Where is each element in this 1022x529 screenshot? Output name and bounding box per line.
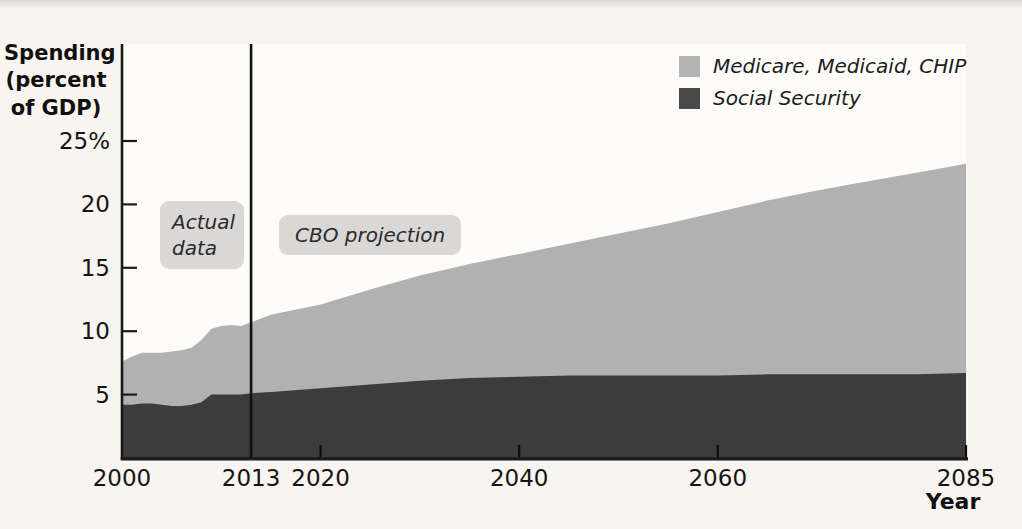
legend-swatch-social-security <box>679 88 700 109</box>
legend-item-social-security: Social Security <box>679 86 966 110</box>
legend-label: Medicare, Medicaid, CHIP <box>713 54 966 78</box>
cbo-projection-annotation: CBO projection <box>279 215 461 255</box>
y-axis-title-line: (percent <box>4 67 108 94</box>
y-tick-label: 25% <box>59 128 110 154</box>
y-tick-label: 20 <box>81 191 110 217</box>
legend: Medicare, Medicaid, CHIP Social Security <box>679 54 966 110</box>
x-tick-label: 2013 <box>222 465 281 491</box>
legend-label: Social Security <box>713 86 861 110</box>
x-tick-label: 2040 <box>490 465 549 491</box>
figure-page: 25%2015105200020132020204020602085 Spend… <box>0 0 1022 529</box>
y-axis-title-line: Spending <box>4 40 108 67</box>
y-axis-title-line: of GDP) <box>4 95 108 122</box>
actual-data-annotation: Actual data <box>160 201 244 269</box>
x-tick-label: 2020 <box>291 465 350 491</box>
y-tick-label: 15 <box>81 255 110 281</box>
legend-item-medicare: Medicare, Medicaid, CHIP <box>679 54 966 78</box>
y-tick-label: 10 <box>81 318 110 344</box>
x-tick-label: 2060 <box>688 465 747 491</box>
y-tick-label: 5 <box>95 382 110 408</box>
x-axis-title: Year <box>922 489 984 514</box>
x-tick-label: 2085 <box>937 465 996 491</box>
legend-swatch-medicare <box>679 56 700 77</box>
y-axis-title: Spending (percent of GDP) <box>4 40 108 122</box>
x-tick-label: 2000 <box>93 465 152 491</box>
